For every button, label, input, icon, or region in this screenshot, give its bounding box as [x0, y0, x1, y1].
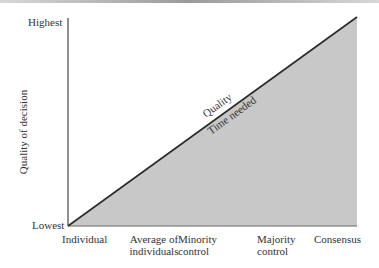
x-tick-line1: Majority: [257, 233, 317, 245]
x-tick-line1: Minority: [178, 233, 238, 245]
x-tick-consensus: Consensus: [314, 233, 379, 245]
y-bottom-label: Lowest: [32, 219, 64, 231]
x-tick-majority-control: Majority control: [257, 233, 317, 257]
x-tick-line1: Consensus: [314, 233, 379, 245]
x-tick-line2: control: [178, 245, 238, 257]
x-tick-minority-control: Minority control: [178, 233, 238, 257]
x-tick-line2: control: [257, 245, 317, 257]
y-top-label: Highest: [28, 16, 62, 28]
y-axis-title: Quality of decision: [17, 87, 29, 177]
